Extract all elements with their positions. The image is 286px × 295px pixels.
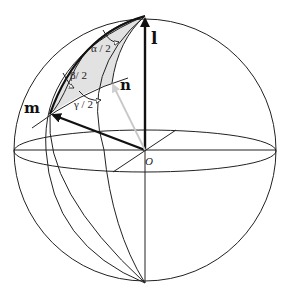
label-n: n	[120, 76, 131, 94]
meridian-lm-lower	[50, 114, 145, 283]
label-gamma-half: γ / 2	[73, 98, 93, 110]
label-l: l	[151, 28, 158, 48]
sphere-diagram: l m n O α / 2 β/ 2 γ / 2	[0, 0, 286, 295]
label-beta-half: β/ 2	[70, 69, 87, 81]
label-origin: O	[145, 155, 153, 167]
label-alpha-half: α / 2	[91, 42, 111, 54]
label-m: m	[24, 99, 40, 117]
